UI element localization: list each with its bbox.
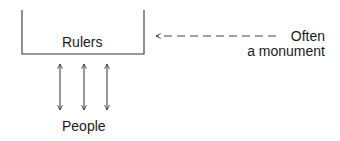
diagram-canvas [0, 0, 340, 141]
annotation-line-1: Often [291, 29, 325, 43]
people-label: People [62, 119, 106, 133]
annotation-line-2: a monument [247, 44, 325, 58]
rulers-label: Rulers [62, 35, 102, 49]
